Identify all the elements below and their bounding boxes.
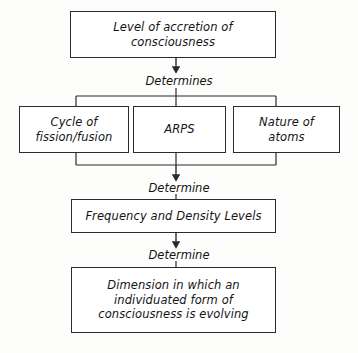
node-nature-text: Nature ofatoms (251, 115, 322, 144)
node-dimension-line1: Dimension in which an (94, 278, 253, 293)
node-nature-of-atoms[interactable]: Nature ofatoms (233, 106, 340, 153)
node-level-of-accretion-line1: Level of accretion of (109, 20, 236, 35)
node-nature-line1: Nature of (255, 115, 318, 130)
node-dimension-text: Dimension in which anindividuated form o… (90, 278, 257, 322)
node-level-of-accretion-text: Level of accretion ofconsciousness (105, 20, 240, 49)
node-frequency-line1: Frequency and Density Levels (81, 209, 265, 224)
diagram-canvas: Level of accretion ofconsciousness Cycle… (0, 0, 358, 353)
node-level-of-accretion[interactable]: Level of accretion ofconsciousness (70, 11, 276, 58)
node-level-of-accretion-line2: consciousness (109, 35, 236, 50)
node-nature-line2: atoms (255, 130, 318, 145)
node-cycle-of-fission-fusion[interactable]: Cycle offission/fusion (19, 106, 129, 153)
node-arps[interactable]: ARPS (133, 106, 226, 153)
node-arps-line1: ARPS (160, 122, 199, 137)
node-frequency-text: Frequency and Density Levels (77, 209, 269, 224)
node-cycle-line2: fission/fusion (32, 130, 117, 145)
node-frequency-and-density-levels[interactable]: Frequency and Density Levels (71, 199, 276, 233)
node-dimension-line2: individuated form of (94, 293, 253, 308)
connector-label-determines: Determines (0, 74, 358, 88)
connector-label-determine-1: Determine (0, 181, 358, 195)
node-dimension-of-consciousness[interactable]: Dimension in which anindividuated form o… (71, 267, 276, 333)
node-cycle-line1: Cycle of (32, 115, 117, 130)
node-dimension-line3: consciousness is evolving (94, 307, 253, 322)
node-cycle-text: Cycle offission/fusion (28, 115, 121, 144)
connector-label-determine-2: Determine (0, 248, 358, 262)
node-arps-text: ARPS (156, 122, 203, 137)
